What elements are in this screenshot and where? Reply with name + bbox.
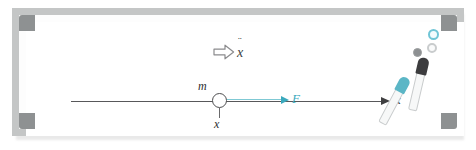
force-vector-arrowhead-icon	[281, 96, 289, 104]
acceleration-variable: x	[237, 45, 243, 60]
position-label: x	[214, 117, 219, 132]
acceleration-annotation: ¨ x	[213, 44, 243, 60]
acceleration-symbol: ¨ x	[237, 45, 243, 61]
x-axis-line	[71, 101, 384, 102]
frame-corner-bottom-right	[441, 113, 457, 129]
mass-label: m	[198, 79, 207, 94]
marker-black-cap	[415, 57, 430, 76]
whiteboard-frame: x m x F ¨	[12, 8, 464, 136]
magnet-teal-ring-icon[interactable]	[428, 29, 439, 40]
marker-black-barrel	[408, 71, 426, 112]
block-arrow-right-icon	[213, 44, 235, 60]
magnet-gray-ring-icon[interactable]	[427, 43, 437, 53]
frame-corner-top-left	[19, 15, 35, 31]
whiteboard-scene: x m x F ¨	[0, 0, 476, 150]
physics-diagram: x m x F ¨	[26, 22, 464, 136]
frame-corner-bottom-left	[19, 113, 35, 129]
mass-circle-icon	[212, 93, 227, 108]
force-vector-line	[227, 99, 284, 100]
whiteboard: x m x F ¨	[12, 8, 464, 136]
frame-corner-top-right	[441, 15, 457, 31]
whiteboard-surface: x m x F ¨	[26, 22, 464, 136]
acceleration-double-dot: ¨	[238, 36, 243, 47]
force-label: F	[292, 91, 300, 107]
